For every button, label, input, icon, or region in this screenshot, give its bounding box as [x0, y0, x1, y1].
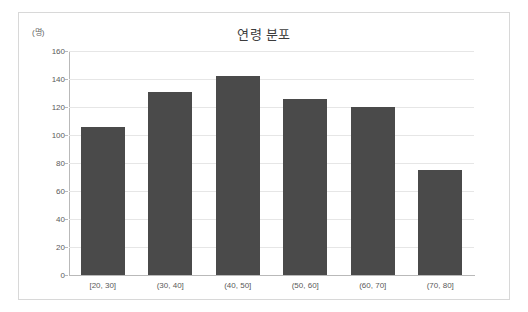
y-axis-unit-label: (명)	[32, 26, 44, 37]
y-axis-tickmark	[65, 247, 68, 248]
x-axis-tick-label: [20, 30]	[89, 281, 116, 290]
bar[interactable]	[351, 107, 395, 275]
bar[interactable]	[216, 76, 260, 275]
y-axis-tick-label: 140	[31, 75, 65, 84]
y-axis-tick-label: 160	[31, 47, 65, 56]
bar-slot	[137, 51, 205, 275]
chart-panel: 연령 분포 (명) 020406080100120140160 [20, 30]…	[18, 12, 510, 300]
bar[interactable]	[81, 127, 125, 275]
bar[interactable]	[148, 92, 192, 275]
bar-slot	[204, 51, 272, 275]
plot-area	[69, 51, 474, 275]
x-axis-tick-label: (60, 70]	[359, 281, 386, 290]
x-axis-tick-label: (50, 60]	[292, 281, 319, 290]
y-axis-tickmark	[65, 191, 68, 192]
y-axis-tickmark	[65, 79, 68, 80]
bar[interactable]	[283, 99, 327, 275]
y-axis-tickmark	[65, 275, 68, 276]
y-axis-tick-label: 40	[31, 215, 65, 224]
x-axis-line	[69, 275, 475, 276]
y-axis-tick-label: 0	[31, 271, 65, 280]
y-axis-tickmark	[65, 107, 68, 108]
y-axis-tick-label: 120	[31, 103, 65, 112]
bar[interactable]	[418, 170, 462, 275]
y-axis-tick-label: 80	[31, 159, 65, 168]
bar-slot	[272, 51, 340, 275]
y-axis-tickmark	[65, 51, 68, 52]
y-axis-tick-label: 20	[31, 243, 65, 252]
bar-slot	[339, 51, 407, 275]
bar-slot	[69, 51, 137, 275]
y-axis-tickmark	[65, 135, 68, 136]
y-axis-tick-label: 100	[31, 131, 65, 140]
y-axis-tickmark	[65, 163, 68, 164]
page-title: 연령 분포	[19, 24, 509, 43]
bar-slot	[407, 51, 475, 275]
x-axis-tick-labels: [20, 30](30, 40](40, 50](50, 60](60, 70]…	[69, 279, 474, 297]
y-axis-tick-labels: 020406080100120140160	[29, 51, 65, 275]
y-axis-tickmark	[65, 219, 68, 220]
x-axis-tick-label: (30, 40]	[157, 281, 184, 290]
y-axis-tick-label: 60	[31, 187, 65, 196]
x-axis-tick-label: (40, 50]	[224, 281, 251, 290]
x-axis-tick-label: (70, 80]	[427, 281, 454, 290]
